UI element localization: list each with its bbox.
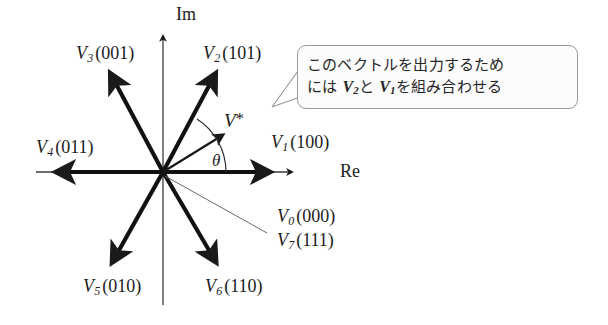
vector-letter: V — [205, 276, 216, 296]
vector-index: 2 — [214, 51, 220, 65]
vector-label-v5: V5(010) — [83, 277, 141, 297]
vector-bits: (111) — [296, 230, 334, 250]
vector-bits: (000) — [296, 206, 335, 226]
vector-bits: (100) — [290, 132, 329, 152]
callout-line-1: このベクトルを出力するため — [307, 55, 568, 76]
vector-bits: (010) — [102, 276, 141, 296]
vector-index: 0 — [288, 214, 294, 228]
vector-label-v1: V1(100) — [271, 133, 329, 153]
vector-bits: (101) — [222, 43, 261, 63]
vector-letter: V — [271, 132, 282, 152]
vector-v6 — [163, 172, 210, 252]
vector-bits: (001) — [95, 43, 134, 63]
vector-letter: V — [277, 206, 288, 226]
callout-line2-mid: と — [359, 78, 379, 96]
vector-label-v0: V0(000) — [277, 207, 335, 227]
callout-line2-pre: には — [307, 78, 342, 96]
reference-vector-letter: V — [224, 110, 236, 131]
reference-vector-label: V* — [224, 110, 244, 130]
callout-bubble: このベクトルを出力するため には V2と V1を組み合わせる — [297, 45, 578, 109]
vector-label-v3: V3(001) — [76, 44, 134, 64]
vector-index: 1 — [282, 140, 288, 154]
vector-index: 3 — [87, 51, 93, 65]
vector-v5 — [118, 172, 163, 252]
vector-index: 7 — [288, 238, 294, 252]
vector-label-v2: V2(101) — [203, 44, 261, 64]
space-vector-diagram: Im Re θ V* V1(100) V2(101) V3(001) V4(01… — [0, 0, 608, 325]
vector-letter: V — [36, 137, 47, 157]
real-axis-label: Re — [340, 162, 360, 180]
callout-v2-letter: V — [342, 78, 353, 95]
theta-angle-label: θ — [212, 152, 220, 169]
vector-letter: V — [277, 230, 288, 250]
callout-line-2: には V2と V1を組み合わせる — [307, 76, 568, 99]
vector-label-v4: V4(011) — [36, 138, 94, 158]
vector-index: 4 — [47, 145, 53, 159]
vector-letter: V — [83, 276, 94, 296]
imaginary-axis-label: Im — [176, 5, 196, 23]
vector-v3 — [116, 84, 163, 172]
callout-line2-post: を組み合わせる — [396, 78, 502, 96]
vector-index: 5 — [94, 284, 100, 298]
vector-label-v7: V7(111) — [277, 231, 334, 251]
vector-label-v6: V6(110) — [205, 277, 263, 297]
vector-index: 6 — [216, 284, 222, 298]
vector-bits: (011) — [55, 137, 93, 157]
callout-v1-letter: V — [379, 78, 390, 95]
vector-bits: (110) — [224, 276, 262, 296]
vector-letter: V — [76, 43, 87, 63]
reference-vector-star: * — [236, 109, 245, 128]
vector-letter: V — [203, 43, 214, 63]
vector-v2 — [163, 84, 210, 172]
